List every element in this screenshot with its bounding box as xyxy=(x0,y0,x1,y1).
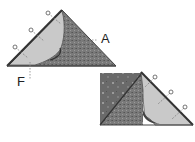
pin-icon xyxy=(169,90,173,94)
pin-icon xyxy=(153,75,157,79)
quilting-diagram xyxy=(0,0,195,142)
pin-icon xyxy=(13,45,17,49)
pin-icon xyxy=(183,105,187,109)
pin-icon xyxy=(29,28,33,32)
label-f: F xyxy=(17,75,25,88)
label-a: A xyxy=(101,32,110,45)
step-2-square xyxy=(100,72,193,125)
step-1-triangle xyxy=(7,10,116,66)
pin-icon xyxy=(46,11,50,15)
